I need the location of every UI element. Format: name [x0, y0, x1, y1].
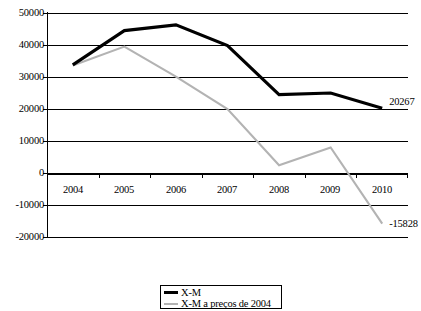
chart-container: 50000 40000 30000 20000 10000 0 -10000 -…	[0, 0, 421, 311]
series-line-deflated	[73, 47, 382, 224]
legend-item-deflated: X-M a preços de 2004	[164, 298, 279, 309]
chart-legend: X-M X-M a preços de 2004	[160, 285, 282, 309]
legend-label-deflated: X-M a preços de 2004	[181, 298, 271, 309]
legend-label-xm: X-M	[181, 287, 201, 298]
data-label-xm: 20267	[389, 96, 414, 107]
data-label-deflated: -15828	[389, 218, 418, 229]
legend-swatch-xm	[164, 291, 178, 294]
legend-item-xm: X-M	[164, 287, 279, 298]
series-line-xm	[73, 25, 382, 108]
series-layer	[0, 0, 421, 311]
legend-swatch-deflated	[164, 303, 178, 305]
